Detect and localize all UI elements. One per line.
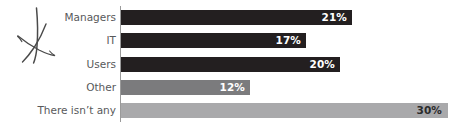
category-label-there-isnt-any: There isn’t any xyxy=(0,103,116,118)
bar-value-users: 20% xyxy=(310,57,335,72)
category-label-managers: Managers xyxy=(0,10,116,25)
category-label-other: Other xyxy=(0,80,116,95)
bar-value-other: 12% xyxy=(220,80,245,95)
bar-row[interactable]: 20% xyxy=(121,57,340,72)
bar-row[interactable]: 21% xyxy=(121,10,352,25)
bar-row[interactable]: 17% xyxy=(121,33,306,48)
bar-chart: Managers 21% IT 17% Users 20% Other 12% … xyxy=(0,0,456,131)
bar-managers[interactable] xyxy=(121,10,352,25)
bar-value-it: 17% xyxy=(276,33,301,48)
bar-row[interactable]: 12% xyxy=(121,80,250,95)
category-label-users: Users xyxy=(0,57,116,72)
bar-there-isnt-any[interactable] xyxy=(121,103,448,118)
plot-area: Managers 21% IT 17% Users 20% Other 12% … xyxy=(0,0,456,131)
bar-row[interactable]: 30% xyxy=(121,103,448,118)
category-label-it: IT xyxy=(0,33,116,48)
bar-value-managers: 21% xyxy=(322,10,347,25)
bar-value-there-isnt-any: 30% xyxy=(417,103,442,118)
bar-users[interactable] xyxy=(121,57,340,72)
